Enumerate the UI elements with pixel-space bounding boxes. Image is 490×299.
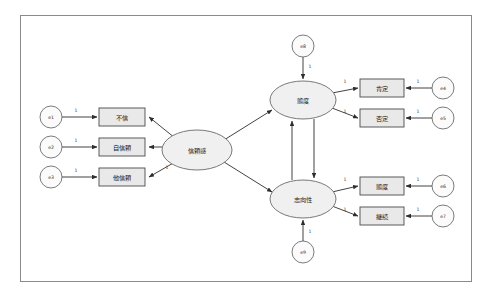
edge-trust-to-obs3 bbox=[149, 162, 175, 177]
error-label-e4: e4 bbox=[440, 86, 446, 91]
path-label-p13: 1 bbox=[309, 64, 312, 69]
edge-attitude-to-obs4 bbox=[332, 88, 358, 93]
path-label-p11: 1 bbox=[417, 177, 420, 182]
path-label-p8: 1 bbox=[344, 207, 347, 212]
path-label-p10: 1 bbox=[417, 109, 420, 114]
latent-node-orientation[interactable]: 志向性 bbox=[270, 180, 336, 218]
path-label-p3: 1 bbox=[75, 168, 78, 173]
error-node-e2[interactable]: e2 bbox=[40, 136, 62, 158]
error-label-e9: e9 bbox=[300, 250, 306, 255]
error-label-e6: e6 bbox=[440, 184, 446, 189]
path-label-p6: 1 bbox=[344, 109, 347, 114]
error-node-e3[interactable]: e3 bbox=[40, 166, 62, 188]
error-label-e3: e3 bbox=[48, 175, 54, 180]
error-label-e8: e8 bbox=[300, 44, 306, 49]
observed-node-obs4[interactable]: 肯定 bbox=[360, 79, 404, 97]
path-diagram: 不信 自信頼 他信頼 肯定 否定 態度 bbox=[0, 0, 490, 299]
error-node-e7[interactable]: e7 bbox=[432, 205, 454, 227]
latent-label-attitude: 態度 bbox=[297, 97, 309, 105]
observed-label-obs1: 不信 bbox=[116, 114, 128, 122]
path-label-p14: 1 bbox=[309, 229, 312, 234]
error-label-e1: e1 bbox=[48, 115, 54, 120]
error-label-e7: e7 bbox=[440, 214, 446, 219]
error-label-e2: e2 bbox=[48, 145, 54, 150]
observed-label-obs2: 自信頼 bbox=[113, 144, 132, 152]
observed-label-obs7: 継続 bbox=[376, 213, 389, 221]
observed-node-obs6[interactable]: 態度 bbox=[360, 177, 404, 195]
path-label-p2: 1 bbox=[75, 138, 78, 143]
error-node-e5[interactable]: e5 bbox=[432, 107, 454, 129]
observed-node-obs7[interactable]: 継続 bbox=[360, 207, 404, 225]
error-node-e4[interactable]: e4 bbox=[432, 77, 454, 99]
error-node-e1[interactable]: e1 bbox=[40, 106, 62, 128]
screenshot-canvas: 不信 自信頼 他信頼 肯定 否定 態度 bbox=[0, 0, 490, 299]
path-label-p9: 1 bbox=[417, 79, 420, 84]
path-label-p12: 1 bbox=[417, 207, 420, 212]
path-label-p5: 1 bbox=[344, 79, 347, 84]
latent-node-attitude[interactable]: 態度 bbox=[270, 81, 336, 119]
latent-label-trust: 信頼感 bbox=[188, 147, 206, 155]
path-label-p1: 1 bbox=[75, 108, 78, 113]
path-label-p7: 1 bbox=[344, 177, 347, 182]
observed-label-obs5: 否定 bbox=[376, 115, 388, 123]
observed-label-obs6: 態度 bbox=[376, 183, 388, 191]
error-node-e8[interactable]: e8 bbox=[292, 35, 314, 57]
error-node-e9[interactable]: e9 bbox=[292, 241, 314, 263]
observed-node-obs5[interactable]: 否定 bbox=[360, 109, 404, 127]
edge-trust-to-obs1 bbox=[149, 117, 175, 138]
observed-node-obs2[interactable]: 自信頼 bbox=[99, 138, 145, 156]
latent-variable-layer: 信頼感 態度 志向性 bbox=[162, 81, 336, 218]
latent-label-orientation: 志向性 bbox=[294, 196, 312, 204]
edge-trust-to-orientation bbox=[224, 162, 272, 192]
observed-node-obs3[interactable]: 他信頼 bbox=[99, 168, 145, 186]
observed-node-obs1[interactable]: 不信 bbox=[99, 108, 145, 126]
error-label-e5: e5 bbox=[440, 116, 446, 121]
path-label-p4: 1 bbox=[166, 165, 169, 170]
latent-node-trust[interactable]: 信頼感 bbox=[162, 130, 232, 170]
observed-variable-layer: 不信 自信頼 他信頼 肯定 否定 態度 bbox=[99, 79, 404, 225]
edge-trust-to-attitude bbox=[224, 110, 272, 140]
error-node-e6[interactable]: e6 bbox=[432, 175, 454, 197]
observed-label-obs4: 肯定 bbox=[376, 85, 388, 93]
observed-label-obs3: 他信頼 bbox=[113, 174, 132, 182]
edge-orientation-to-obs6 bbox=[332, 186, 358, 192]
